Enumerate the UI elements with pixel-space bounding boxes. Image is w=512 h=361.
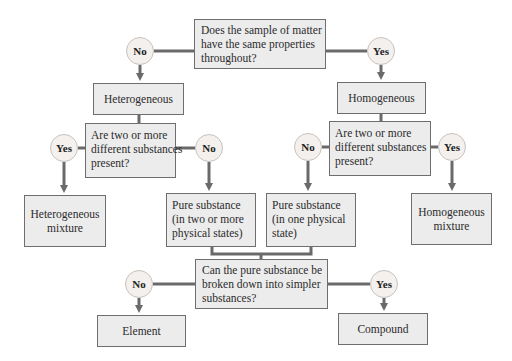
- compound-box: Compound: [338, 313, 428, 345]
- question-same-properties: Does the sample of matter have the same …: [194, 19, 326, 69]
- box-line: Pure substance: [272, 198, 350, 212]
- box-line: state): [272, 226, 350, 240]
- question-broken-down: Can the pure substance be broken down in…: [195, 259, 328, 309]
- question-line: broken down into simpler: [202, 277, 321, 291]
- box-line: Heterogeneous: [31, 207, 100, 221]
- question-line: different substances: [335, 140, 425, 154]
- heterogeneous-mixture-box: Heterogeneous mixture: [24, 195, 106, 247]
- question-line: present?: [91, 156, 170, 170]
- question-different-substances-left: Are two or more different substances pre…: [85, 123, 176, 178]
- question-line: Are two or more: [335, 126, 425, 140]
- answer-yes-circle: Yes: [367, 37, 395, 65]
- question-line: different substances: [91, 142, 170, 156]
- box-line: mixture: [47, 221, 83, 235]
- question-line: present?: [335, 154, 425, 168]
- box-line: mixture: [434, 219, 470, 233]
- question-different-substances-right: Are two or more different substances pre…: [329, 121, 431, 176]
- homogeneous-box: Homogeneous: [337, 82, 426, 114]
- pure-substance-two-states-box: Pure substance (in two or more physical …: [166, 193, 256, 247]
- heterogeneous-box: Heterogeneous: [93, 83, 184, 115]
- answer-no-circle: No: [195, 134, 223, 162]
- question-line: Can the pure substance be: [202, 263, 321, 277]
- box-line: Homogeneous: [418, 205, 484, 219]
- box-line: (in two or more: [172, 212, 250, 226]
- box-line: physical states): [172, 226, 250, 240]
- question-line: substances?: [202, 291, 321, 305]
- answer-yes-circle: Yes: [50, 134, 78, 162]
- pure-substance-one-state-box: Pure substance (in one physical state): [266, 193, 356, 247]
- answer-no-circle: No: [126, 37, 154, 65]
- answer-yes-circle: Yes: [438, 133, 466, 161]
- answer-no-circle: No: [125, 270, 153, 298]
- answer-yes-circle: Yes: [370, 270, 398, 298]
- homogeneous-mixture-box: Homogeneous mixture: [411, 193, 492, 245]
- box-line: (in one physical: [272, 212, 350, 226]
- box-line: Pure substance: [172, 198, 250, 212]
- question-line: have the same properties: [201, 37, 319, 51]
- question-line: throughout?: [201, 51, 319, 65]
- element-box: Element: [97, 315, 186, 347]
- question-line: Does the sample of matter: [201, 23, 319, 37]
- question-line: Are two or more: [91, 128, 170, 142]
- answer-no-circle: No: [294, 133, 322, 161]
